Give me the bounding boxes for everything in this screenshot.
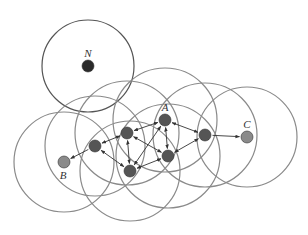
link-n1-n6: [101, 150, 124, 166]
label-N: N: [83, 47, 92, 59]
link-n6-n5: [137, 159, 161, 168]
node-N: [82, 60, 94, 72]
link-n2-n5: [134, 137, 162, 153]
node-C: [241, 131, 253, 143]
label-C: C: [243, 118, 251, 130]
link-n1-B: [71, 149, 89, 158]
node-B: [58, 156, 70, 168]
node-n5: [162, 150, 174, 162]
link-n2-n6: [128, 140, 130, 163]
label-A: A: [161, 101, 169, 113]
node-n1: [89, 140, 101, 152]
node-n6: [124, 165, 136, 177]
coverage-circles: [14, 20, 297, 221]
link-A-n4: [172, 123, 198, 133]
link-n6-A: [134, 126, 161, 165]
node-n4: [199, 129, 211, 141]
label-B: B: [60, 169, 67, 181]
network-diagram: NBAC: [0, 0, 308, 235]
node-A: [159, 114, 171, 126]
node-n2: [121, 127, 133, 139]
